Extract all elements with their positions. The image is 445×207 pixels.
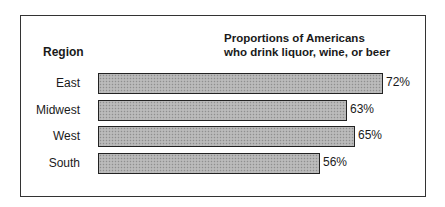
bar-row: South56% [0,153,445,174]
value-label: 65% [358,126,382,147]
bar [98,153,320,174]
bar-row: West65% [0,126,445,147]
bar [98,73,383,94]
value-label: 63% [350,100,374,121]
category-label: East [56,73,80,94]
bar [98,126,355,147]
region-column-header: Region [43,45,84,59]
category-label: South [49,153,80,174]
value-label: 72% [386,73,410,94]
bar-row: East72% [0,73,445,94]
category-label: West [53,126,80,147]
bar [98,100,347,121]
chart-title-line-1: Proportions of Americans [224,31,390,45]
value-label: 56% [323,153,347,174]
chart-title: Proportions of Americans who drink liquo… [224,31,390,59]
chart-title-line-2: who drink liquor, wine, or beer [224,45,390,59]
bar-row: Midwest63% [0,100,445,121]
category-label: Midwest [36,100,80,121]
